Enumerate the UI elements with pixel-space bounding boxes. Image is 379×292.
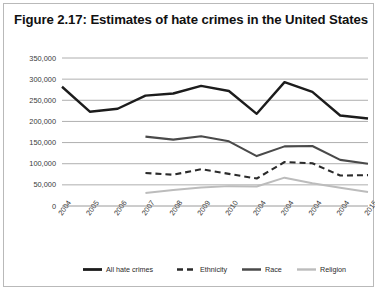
x-axis-tick-label: 2004 <box>56 199 73 218</box>
legend-label: Ethnicity <box>200 265 228 274</box>
series-line <box>145 178 368 193</box>
x-axis-tick-label: 2015 <box>362 199 375 218</box>
y-axis-tick-label: 50,000 <box>33 180 56 189</box>
y-axis-tick-labels: 350,000300,000250,000200,000150,000100,0… <box>29 54 56 211</box>
x-axis-tick-label: 2010 <box>223 199 240 218</box>
x-axis-tick-label: 2006 <box>112 199 129 218</box>
y-axis-tick-label: 250,000 <box>29 96 56 105</box>
y-axis-tick-label: 0 <box>52 202 56 211</box>
chart-legend: All hate crimesEthnicityRaceReligion <box>83 265 346 274</box>
legend-label: Race <box>265 265 282 274</box>
x-axis-tick-label: 2008 <box>168 199 185 218</box>
line-chart: 350,000300,000250,000200,000150,000100,0… <box>4 44 375 286</box>
y-axis-tick-label: 150,000 <box>29 138 56 147</box>
series-line <box>145 162 368 178</box>
data-series-group <box>62 82 368 193</box>
y-axis-tick-label: 350,000 <box>29 54 56 63</box>
x-axis-tick-labels: 2004200520062007200820092010200420042004… <box>56 199 375 218</box>
figure-card: Figure 2.17: Estimates of hate crimes in… <box>3 3 374 287</box>
legend-label: Religion <box>320 265 346 274</box>
page-title: Figure 2.17: Estimates of hate crimes in… <box>14 12 366 28</box>
chart-plot-area: 350,000300,000250,000200,000150,000100,0… <box>4 44 375 286</box>
x-axis-tick-label: 2004 <box>251 199 268 218</box>
x-axis-tick-label: 2009 <box>195 199 212 218</box>
y-axis-tick-label: 100,000 <box>29 159 56 168</box>
y-axis-tick-label: 200,000 <box>29 117 56 126</box>
x-axis-tick-label: 2005 <box>84 199 101 218</box>
y-axis-tick-label: 300,000 <box>29 75 56 84</box>
legend-label: All hate crimes <box>106 265 154 274</box>
x-axis-tick-label: 2004 <box>307 199 324 218</box>
x-axis-tick-label: 2007 <box>140 199 157 218</box>
x-axis-tick-label: 2004 <box>334 199 351 218</box>
x-axis-tick-label: 2004 <box>279 199 296 218</box>
series-line <box>145 136 368 163</box>
